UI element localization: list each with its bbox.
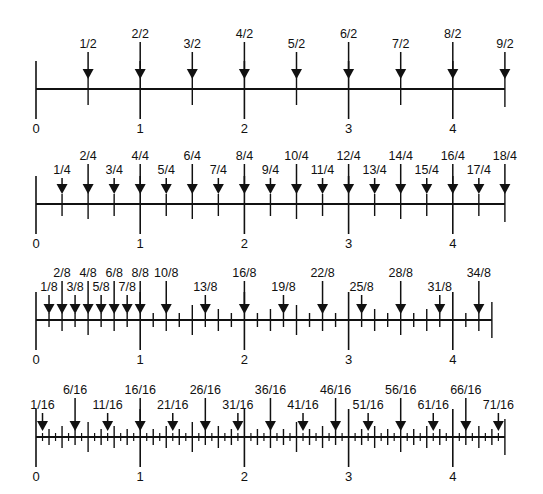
arrow-down-icon (447, 184, 458, 194)
number-line-sixteenths: 012341/166/1611/1616/1621/1626/1631/1636… (30, 383, 514, 484)
fraction-label: 5/4 (158, 163, 175, 177)
fraction-label: 7/8 (118, 280, 135, 294)
fraction-label: 1/2 (79, 37, 96, 51)
whole-number-label: 2 (241, 236, 248, 251)
fraction-label: 56/16 (385, 383, 416, 397)
arrow-down-icon (493, 421, 504, 431)
whole-number-label: 0 (32, 352, 39, 367)
arrow-down-icon (499, 69, 510, 79)
arrow-down-icon (369, 184, 380, 194)
arrow-down-icon (395, 184, 406, 194)
fraction-label: 10/8 (154, 266, 178, 280)
whole-number-label: 3 (345, 236, 352, 251)
fraction-label: 3/8 (66, 280, 83, 294)
fraction-label: 1/16 (30, 398, 54, 412)
arrow-down-icon (135, 184, 146, 194)
fraction-label: 4/8 (79, 266, 96, 280)
arrow-down-icon (200, 304, 211, 314)
fraction-label: 26/16 (190, 383, 221, 397)
fraction-label: 2/2 (132, 27, 149, 41)
whole-number-label: 1 (137, 352, 144, 367)
whole-number-label: 0 (32, 121, 39, 136)
fraction-label: 8/8 (132, 266, 149, 280)
fraction-label: 11/16 (92, 398, 122, 412)
fraction-label: 51/16 (352, 398, 383, 412)
arrow-down-icon (421, 184, 432, 194)
arrow-down-icon (473, 184, 484, 194)
arrow-down-icon (122, 304, 133, 314)
arrow-down-icon (57, 304, 68, 314)
fraction-label: 6/8 (105, 266, 122, 280)
arrow-down-icon (70, 421, 81, 431)
number-line-halves: 012341/22/23/24/25/26/27/28/29/2 (32, 27, 513, 136)
whole-number-label: 4 (449, 352, 456, 367)
arrow-down-icon (343, 69, 354, 79)
fraction-label: 18/4 (493, 149, 517, 163)
number-line-fourths: 012341/42/43/44/45/46/47/48/49/410/411/4… (32, 149, 517, 251)
fraction-label: 31/8 (428, 280, 452, 294)
arrow-down-icon (239, 69, 250, 79)
arrow-down-icon (239, 304, 250, 314)
fraction-label: 41/16 (287, 398, 318, 412)
whole-number-label: 0 (32, 236, 39, 251)
arrow-down-icon (356, 304, 367, 314)
fraction-label: 4/2 (236, 27, 253, 41)
arrow-down-icon (278, 304, 289, 314)
arrow-down-icon (135, 304, 146, 314)
fraction-label: 4/4 (132, 149, 149, 163)
fraction-label: 2/8 (53, 266, 70, 280)
fraction-label: 1/8 (40, 280, 57, 294)
fraction-label: 28/8 (389, 266, 413, 280)
fraction-label: 11/4 (311, 163, 334, 177)
whole-number-label: 4 (449, 121, 456, 136)
whole-number-label: 1 (137, 469, 144, 484)
number-line-eighths: 012341/82/83/84/85/86/87/88/810/813/816/… (32, 266, 491, 367)
fraction-label: 31/16 (222, 398, 253, 412)
fraction-label: 2/4 (79, 149, 96, 163)
arrow-down-icon (460, 421, 471, 431)
arrow-down-icon (499, 184, 510, 194)
whole-number-label: 3 (345, 469, 352, 484)
fraction-label: 3/2 (184, 37, 201, 51)
arrow-down-icon (83, 304, 94, 314)
arrow-down-icon (96, 304, 107, 314)
fraction-label: 71/16 (483, 398, 514, 412)
arrow-down-icon (291, 184, 302, 194)
arrow-down-icon (187, 69, 198, 79)
whole-number-label: 3 (345, 121, 352, 136)
fraction-label: 16/4 (441, 149, 465, 163)
whole-number-label: 2 (241, 352, 248, 367)
fraction-label: 12/4 (336, 149, 360, 163)
arrow-down-icon (330, 421, 341, 431)
fraction-label: 13/8 (193, 280, 217, 294)
arrow-down-icon (447, 69, 458, 79)
arrow-down-icon (317, 184, 328, 194)
fraction-label: 15/4 (415, 163, 439, 177)
arrow-down-icon (395, 304, 406, 314)
arrow-down-icon (265, 184, 276, 194)
fraction-label: 5/8 (92, 280, 109, 294)
arrow-down-icon (161, 184, 172, 194)
fraction-label: 13/4 (362, 163, 386, 177)
arrow-down-icon (428, 421, 439, 431)
arrow-down-icon (434, 304, 445, 314)
fraction-label: 25/8 (349, 280, 373, 294)
fraction-label: 36/16 (255, 383, 286, 397)
fraction-label: 16/16 (125, 383, 156, 397)
whole-number-label: 3 (345, 352, 352, 367)
fraction-label: 9/2 (496, 37, 513, 51)
fraction-label: 14/4 (389, 149, 413, 163)
whole-number-label: 4 (449, 469, 456, 484)
fraction-label: 16/8 (232, 266, 256, 280)
arrow-down-icon (265, 421, 276, 431)
arrow-down-icon (102, 421, 113, 431)
fraction-label: 7/2 (392, 37, 409, 51)
arrow-down-icon (135, 69, 146, 79)
whole-number-label: 2 (241, 469, 248, 484)
number-lines-diagram: 012341/22/23/24/25/26/27/28/29/2012341/4… (0, 0, 543, 494)
fraction-label: 1/4 (53, 163, 70, 177)
whole-number-label: 2 (241, 121, 248, 136)
arrow-down-icon (135, 421, 146, 431)
arrow-down-icon (109, 304, 120, 314)
arrow-down-icon (317, 304, 328, 314)
